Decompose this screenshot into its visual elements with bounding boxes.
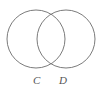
set-circle-c [7, 10, 65, 68]
set-label-d: D [59, 75, 67, 86]
set-circle-d [37, 10, 95, 68]
set-label-c: C [33, 75, 40, 86]
venn-diagram-figure: C D [0, 0, 105, 92]
venn-diagram-canvas [0, 0, 105, 92]
